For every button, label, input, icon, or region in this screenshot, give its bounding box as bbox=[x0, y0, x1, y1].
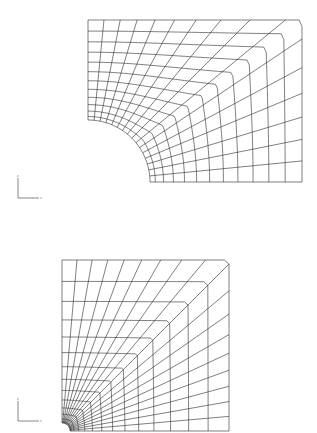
figure-canvas: zx zx bbox=[0, 0, 317, 433]
fine-hole-mesh bbox=[62, 260, 229, 431]
svg-text:z: z bbox=[17, 397, 19, 401]
svg-text:x: x bbox=[40, 419, 42, 423]
axis-triad-bottom-icon: zx bbox=[17, 397, 42, 423]
svg-text:z: z bbox=[17, 174, 19, 178]
svg-text:x: x bbox=[40, 196, 42, 200]
axis-triad-top-icon: zx bbox=[17, 174, 42, 200]
coarse-hole-mesh bbox=[88, 20, 302, 182]
